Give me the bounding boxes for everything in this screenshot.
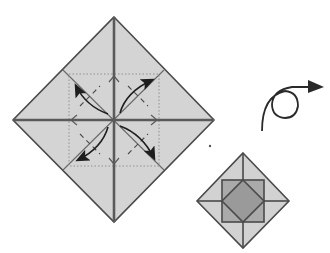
result-diamond bbox=[197, 153, 289, 248]
stray-dot bbox=[209, 145, 211, 147]
turn-over-icon bbox=[262, 80, 324, 131]
center-creases bbox=[13, 17, 214, 222]
main-diamond-step bbox=[13, 17, 214, 222]
origami-diagram bbox=[0, 0, 330, 253]
